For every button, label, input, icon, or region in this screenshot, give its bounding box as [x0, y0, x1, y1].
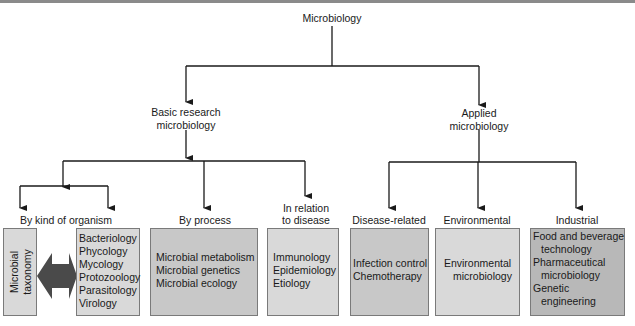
box-microbial-taxonomy: Microbial taxonomy [3, 228, 37, 316]
label-industrial: Industrial [545, 214, 609, 227]
item-immunology: Immunology [273, 251, 338, 264]
item-virology: Virology [79, 297, 139, 310]
item-protozoology: Protozoology [79, 271, 139, 284]
item-genetic: Genetic [533, 282, 624, 295]
box-organisms: Bacteriology Phycology Mycology Protozoo… [76, 228, 140, 316]
item-metabolism: Microbial metabolism [156, 251, 257, 264]
item-env-microbiology: microbiology [436, 270, 519, 283]
item-ecology: Microbial ecology [156, 277, 257, 290]
label-by-kind: By kind of organism [18, 214, 114, 227]
basic-research-node: Basic research microbiology [146, 106, 226, 131]
label-in-relation-2: to disease [278, 214, 334, 227]
item-genetics: Microbial genetics [156, 264, 257, 277]
label-by-process: By process [170, 214, 240, 227]
box-in-relation-to-disease: Immunology Epidemiology Etiology [267, 228, 339, 316]
item-bacteriology: Bacteriology [79, 232, 139, 245]
item-phycology: Phycology [79, 245, 139, 258]
root-node: Microbiology [300, 12, 364, 25]
item-environmental: Environmental [436, 257, 519, 270]
double-arrow-icon [37, 253, 77, 299]
label-disease-related: Disease-related [349, 214, 429, 227]
item-food-beverage: Food and beverage [533, 230, 624, 243]
box-disease-related: Infection control Chemotherapy [350, 228, 429, 316]
label-environmental: Environmental [435, 214, 519, 227]
item-pharmaceutical: Pharmaceutical [533, 256, 624, 269]
box-environmental: Environmental microbiology [435, 228, 520, 316]
item-engineering: engineering [533, 295, 624, 308]
item-pharma-microbiology: microbiology [533, 269, 624, 282]
item-etiology: Etiology [273, 277, 338, 290]
item-mycology: Mycology [79, 258, 139, 271]
label-in-relation-1: In relation [278, 202, 334, 215]
item-chemotherapy: Chemotherapy [353, 270, 428, 283]
item-infection-control: Infection control [353, 257, 428, 270]
taxonomy-text: Microbial taxonomy [8, 249, 33, 295]
item-epidemiology: Epidemiology [273, 264, 338, 277]
applied-node: Applied microbiology [444, 107, 514, 132]
item-technology: technology [533, 243, 624, 256]
box-by-process: Microbial metabolism Microbial genetics … [150, 228, 258, 316]
box-industrial: Food and beverage technology Pharmaceuti… [530, 228, 625, 316]
item-parasitology: Parasitology [79, 284, 139, 297]
